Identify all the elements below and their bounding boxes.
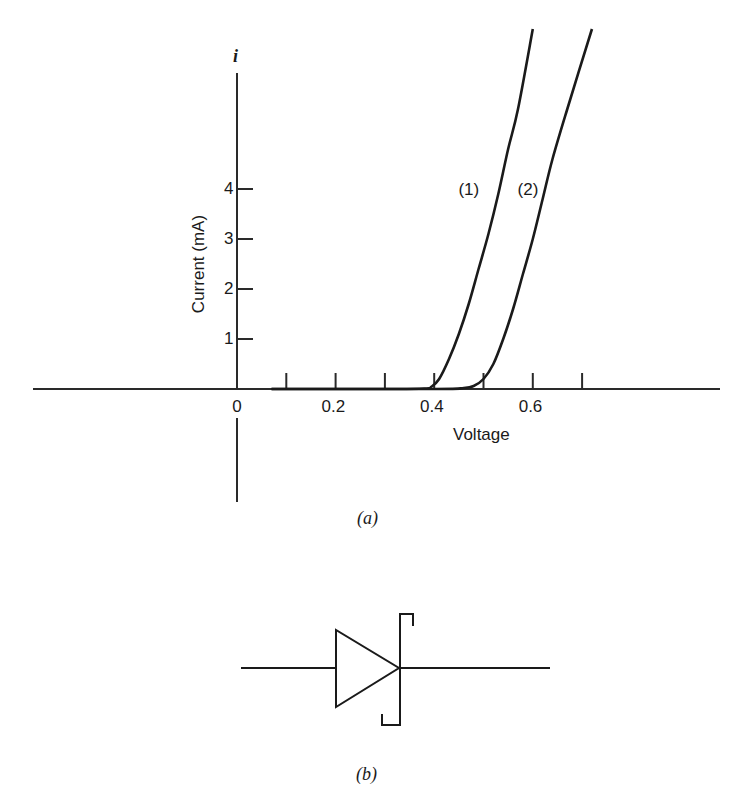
y-ticks — [237, 189, 253, 339]
y-tick-label: 3 — [224, 230, 233, 247]
y-axis-label: Current (mA) — [189, 209, 209, 319]
schottky-diode-symbol — [241, 614, 550, 725]
x-ticks — [286, 373, 582, 389]
x-tick-label: 0.2 — [322, 398, 346, 415]
curve-2 — [272, 29, 592, 389]
diode-triangle — [336, 630, 399, 707]
x-tick-label: 0 — [232, 398, 241, 415]
caption-a: (a) — [357, 509, 378, 527]
iv-chart — [0, 0, 737, 793]
caption-b: (b) — [356, 765, 377, 783]
y-tick-label: 2 — [224, 280, 233, 297]
curve-label: (1) — [458, 181, 479, 198]
x-tick-label: 0.4 — [420, 398, 444, 415]
y-axis-symbol: i — [233, 47, 238, 65]
curve-1 — [272, 29, 533, 389]
x-tick-label: 0.6 — [519, 398, 543, 415]
curves — [272, 29, 592, 389]
y-tick-label: 1 — [224, 330, 233, 347]
x-axis-label: Voltage — [453, 426, 510, 443]
curve-label: (2) — [518, 181, 539, 198]
y-tick-label: 4 — [224, 180, 233, 197]
